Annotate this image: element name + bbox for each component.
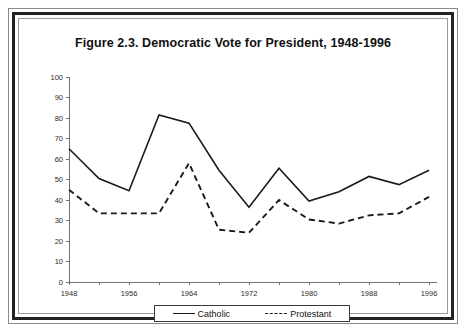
- y-tick-label: 0: [59, 278, 63, 287]
- legend-entry-catholic: Catholic: [173, 309, 231, 319]
- chart-series: [69, 115, 429, 233]
- y-tick-label: 40: [55, 196, 63, 205]
- series-line-catholic: [69, 115, 429, 207]
- x-axis: 1948195619641972198019881996: [61, 282, 438, 298]
- y-tick-label: 30: [55, 216, 63, 225]
- x-tick-label: 1964: [181, 289, 198, 298]
- x-tick-label: 1948: [61, 289, 78, 298]
- y-tick-label: 60: [55, 155, 63, 164]
- x-tick-label: 1988: [361, 289, 378, 298]
- y-tick-label: 10: [55, 257, 63, 266]
- y-tick-label: 90: [55, 93, 63, 102]
- legend-entry-protestant: Protestant: [265, 309, 331, 319]
- figure-outer-frame: Figure 2.3. Democratic Vote for Presiden…: [8, 8, 458, 324]
- x-tick-label: 1996: [421, 289, 438, 298]
- dashed-line-icon: [265, 310, 287, 318]
- x-tick-label: 1980: [301, 289, 318, 298]
- x-tick-label: 1972: [241, 289, 258, 298]
- chart-legend: CatholicProtestant: [154, 305, 350, 322]
- y-tick-label: 70: [55, 134, 63, 143]
- y-tick-label: 80: [55, 114, 63, 123]
- y-tick-label: 50: [55, 175, 63, 184]
- y-tick-label: 100: [50, 73, 63, 82]
- legend-label: Catholic: [198, 309, 231, 319]
- legend-label: Protestant: [290, 309, 331, 319]
- series-line-protestant: [69, 163, 429, 233]
- figure-inner-frame: Figure 2.3. Democratic Vote for Presiden…: [12, 12, 454, 320]
- y-axis: 0102030405060708090100: [50, 73, 69, 287]
- figure-plate: Figure 2.3. Democratic Vote for Presiden…: [18, 18, 448, 314]
- x-tick-label: 1956: [121, 289, 138, 298]
- y-tick-label: 20: [55, 237, 63, 246]
- chart-plot-area: 0102030405060708090100 19481956196419721…: [19, 19, 466, 332]
- solid-line-icon: [173, 310, 195, 318]
